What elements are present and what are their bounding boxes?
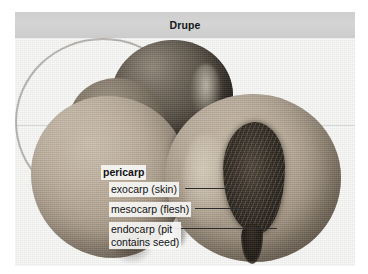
background-notch	[15, 206, 42, 253]
figure-title-band: Drupe	[15, 12, 355, 38]
label-endocarp-line1: endocarp (pit	[111, 223, 172, 235]
figure-title: Drupe	[15, 12, 355, 38]
leader-line-endocarp	[171, 228, 277, 229]
drupe-figure: Drupe pericarp exocarp (skin) mesocarp (…	[0, 0, 368, 274]
label-endocarp-line2: contains seed)	[111, 236, 179, 249]
leader-line-exocarp	[185, 188, 233, 189]
drupe-photograph: pericarp exocarp (skin) mesocarp (flesh)…	[15, 38, 355, 266]
label-endocarp: endocarp (pit contains seed)	[109, 222, 181, 249]
leader-line-mesocarp	[195, 208, 251, 209]
label-mesocarp: mesocarp (flesh)	[109, 202, 191, 217]
label-exocarp: exocarp (skin)	[109, 182, 179, 197]
label-pericarp: pericarp	[101, 165, 146, 180]
